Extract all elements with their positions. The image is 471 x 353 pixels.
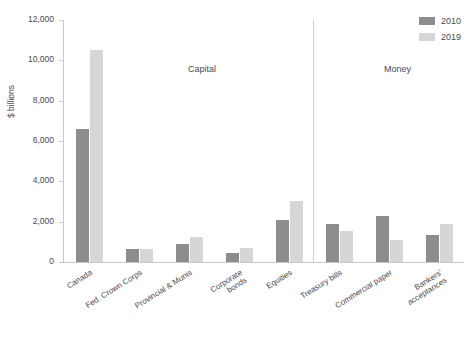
legend-swatch [419, 33, 435, 41]
bar-group [126, 20, 153, 262]
bar-group [326, 20, 353, 262]
bar-group [376, 20, 403, 262]
legend-label: 2010 [441, 16, 461, 26]
bar-group [276, 20, 303, 262]
x-axis-line [63, 262, 464, 263]
y-axis-tick-label: 10,000 [28, 54, 54, 64]
bar-2010 [226, 253, 239, 262]
bar-2010 [276, 220, 289, 262]
bar-2019 [190, 237, 203, 262]
y-axis-tick-label: 8,000 [33, 95, 54, 105]
section-label: Capital [188, 64, 216, 74]
bar-2010 [426, 235, 439, 262]
bar-2019 [340, 231, 353, 262]
legend-swatch [419, 17, 435, 25]
y-axis-tick-label: 6,000 [33, 135, 54, 145]
legend: 20102019 [419, 16, 461, 48]
y-axis-tick-label: 4,000 [33, 175, 54, 185]
legend-item[interactable]: 2010 [419, 16, 461, 26]
bar-group [76, 20, 103, 262]
y-axis-title: $ billions [6, 104, 16, 118]
section-label: Money [384, 64, 411, 74]
y-axis-tick-label: 2,000 [33, 216, 54, 226]
bar-2010 [376, 216, 389, 262]
legend-label: 2019 [441, 32, 461, 42]
bar-2019 [290, 201, 303, 263]
plot-area [64, 20, 464, 262]
bar-2010 [326, 224, 339, 262]
legend-item[interactable]: 2019 [419, 32, 461, 42]
bar-group [176, 20, 203, 262]
bar-group [426, 20, 453, 262]
bar-group [226, 20, 253, 262]
bar-2019 [440, 224, 453, 262]
bar-2010 [126, 249, 139, 262]
bar-2010 [176, 244, 189, 262]
bar-2019 [90, 50, 103, 262]
x-axis-label: Bankers' acceptances [337, 268, 449, 348]
bar-chart: $ billions 12,00010,0008,0006,0004,0002,… [0, 0, 471, 353]
y-axis-tick-label: 0 [49, 256, 54, 266]
y-axis-tick-label: 12,000 [28, 14, 54, 24]
bar-2019 [240, 248, 253, 262]
bar-2019 [390, 240, 403, 262]
bar-2019 [140, 249, 153, 262]
bar-2010 [76, 129, 89, 262]
